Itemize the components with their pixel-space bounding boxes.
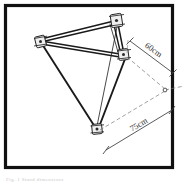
joint-bottom-pivot-pin (96, 128, 99, 131)
joint-mid-right-pivot-pin (122, 53, 125, 56)
vanishing-node (163, 88, 167, 92)
figure-caption: Fig. 1 Stand dimensions (6, 176, 126, 184)
joint-left-pivot-pin (39, 40, 42, 43)
figure-root: 60cm 75cm Fig. 1 Stand dimensions (0, 0, 184, 185)
technical-drawing-canvas: 60cm 75cm (0, 0, 184, 185)
drawing-background (0, 0, 184, 185)
vanishing-node-marker (163, 88, 167, 92)
joint-top-right-pivot-pin (115, 19, 118, 22)
joint-left (34, 35, 47, 48)
